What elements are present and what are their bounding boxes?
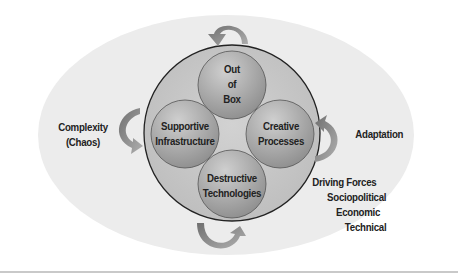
label-out-of-box: Out of Box (217, 62, 247, 107)
label-line: Supportive (145, 119, 224, 134)
label-adaptation: Adaptation (355, 127, 403, 142)
label-line: Complexity (52, 120, 114, 135)
driving-force-economic: Economic (336, 205, 380, 220)
label-line: Infrastructure (145, 134, 224, 149)
label-line: Technologies (195, 186, 269, 201)
driving-force-sociopolitical: Sociopolitical (327, 190, 386, 205)
label-line: (Chaos) (52, 135, 114, 150)
label-line: Out (217, 62, 247, 77)
label-line: Creative (249, 119, 312, 134)
label-line: of (217, 77, 247, 92)
label-line: Processes (249, 134, 312, 149)
label-supportive-infrastructure: Supportive Infrastructure (145, 119, 224, 149)
driving-force-technical: Technical (345, 220, 387, 235)
label-line: Destructive (195, 171, 269, 186)
label-creative-processes: Creative Processes (249, 119, 312, 149)
label-line: Box (217, 92, 247, 107)
label-destructive-technologies: Destructive Technologies (195, 171, 269, 201)
driving-forces-title: Driving Forces (312, 175, 376, 190)
label-complexity-chaos: Complexity (Chaos) (52, 120, 114, 150)
